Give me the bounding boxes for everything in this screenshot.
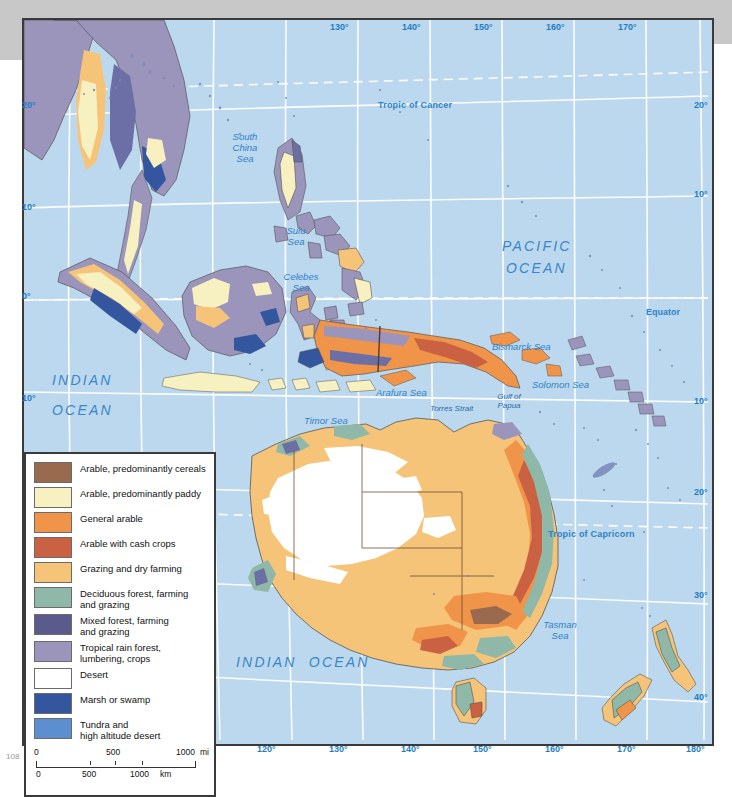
lon-label-160: 160° [545, 744, 564, 754]
legend-label: Arable, predominantly paddy [80, 487, 201, 499]
legend-item[interactable]: Arable with cash crops [34, 537, 206, 558]
scale-mi-tick-0: 0 [34, 747, 39, 757]
lon-label-170: 170° [617, 744, 636, 754]
lon-label-top-160: 160° [546, 22, 565, 32]
legend-item[interactable]: Mixed forest, farming and grazing [34, 614, 206, 637]
legend-label: Desert [80, 668, 108, 680]
lat-label-right-40s: 40° [694, 692, 708, 702]
legend-item[interactable]: Grazing and dry farming [34, 562, 206, 583]
legend-label: General arable [80, 512, 143, 524]
lon-label-120: 120° [257, 744, 276, 754]
legend-swatch-desert [34, 668, 72, 689]
legend-label: Grazing and dry farming [80, 562, 182, 574]
lon-label-top-150: 150° [474, 22, 493, 32]
scale-mi-tick-500: 500 [106, 747, 120, 757]
lon-label-top-140: 140° [402, 22, 421, 32]
legend-swatch-mixed-forest [34, 614, 72, 635]
scale-km-tick-0: 0 [36, 769, 41, 779]
legend-label: Tropical rain forest, lumbering, crops [80, 641, 161, 664]
legend-swatch-tropical-rain-forest [34, 641, 72, 662]
legend-swatch-arable-paddy [34, 487, 72, 508]
page-number: 108 [6, 752, 19, 761]
lon-label-140: 140° [401, 744, 420, 754]
legend-label: Arable with cash crops [80, 537, 176, 549]
scale-km-tick-1000: 1000 [130, 769, 149, 779]
legend-swatch-grazing-dry-farming [34, 562, 72, 583]
scale-mi-tick-1000: 1000 [176, 747, 195, 757]
lat-label-left-10n: 10° [22, 202, 36, 212]
lon-label-top-130: 130° [330, 22, 349, 32]
legend-swatch-deciduous-forest [34, 587, 72, 608]
lon-label-top-170: 170° [618, 22, 637, 32]
lat-label-right-20s: 20° [694, 487, 708, 497]
lat-label-left-0: 0° [22, 291, 31, 301]
legend-item[interactable]: General arable [34, 512, 206, 533]
lat-label-right-20n: 20° [694, 100, 708, 110]
legend-item[interactable]: Desert [34, 668, 206, 689]
scale-km-unit: km [160, 769, 171, 779]
lon-label-150: 150° [473, 744, 492, 754]
legend-item[interactable]: Tundra and high altitude desert [34, 718, 206, 741]
map-legend[interactable]: Arable, predominantly cereals Arable, pr… [24, 452, 216, 797]
lat-label-right-30s: 30° [694, 590, 708, 600]
legend-label: Mixed forest, farming and grazing [80, 614, 169, 637]
legend-item[interactable]: Deciduous forest, farming and grazing [34, 587, 206, 610]
legend-swatch-tundra [34, 718, 72, 739]
scale-bar: 0 500 1000 mi 0 500 1000 km [34, 747, 206, 789]
scale-km-tick-500: 500 [82, 769, 96, 779]
legend-item[interactable]: Arable, predominantly paddy [34, 487, 206, 508]
lon-label-180: 180° [686, 744, 705, 754]
legend-label: Arable, predominantly cereals [80, 462, 206, 474]
legend-item[interactable]: Tropical rain forest, lumbering, crops [34, 641, 206, 664]
legend-swatch-arable-cereals [34, 462, 72, 483]
lat-label-right-10s: 10° [694, 396, 708, 406]
legend-label: Tundra and high altitude desert [80, 718, 160, 741]
legend-label: Marsh or swamp [80, 693, 150, 705]
lat-label-left-10s: 10° [22, 393, 36, 403]
lat-label-left-20n: 20° [22, 100, 36, 110]
lat-label-right-10n: 10° [694, 189, 708, 199]
scale-mi-unit: mi [200, 747, 209, 757]
lon-label-130: 130° [329, 744, 348, 754]
legend-swatch-marsh-swamp [34, 693, 72, 714]
legend-swatch-general-arable [34, 512, 72, 533]
legend-swatch-arable-cash-crops [34, 537, 72, 558]
legend-item[interactable]: Arable, predominantly cereals [34, 462, 206, 483]
legend-item[interactable]: Marsh or swamp [34, 693, 206, 714]
legend-label: Deciduous forest, farming and grazing [80, 587, 188, 610]
